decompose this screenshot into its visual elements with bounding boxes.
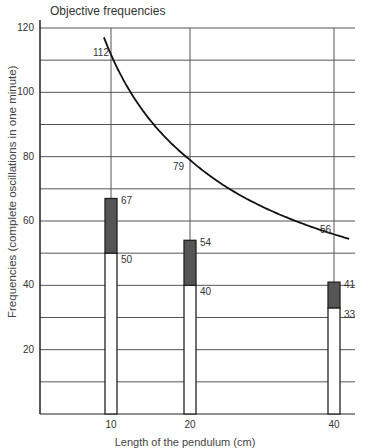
y-tick-label: 40 (23, 279, 35, 290)
y-tick-label: 120 (17, 22, 34, 33)
bar-lower (105, 253, 117, 414)
bar-upper (328, 282, 340, 308)
curve-label-112: 112 (93, 47, 109, 58)
y-tick-label: 20 (23, 344, 35, 355)
x-tick-label: 10 (105, 419, 117, 430)
curve-label-79: 79 (173, 161, 185, 172)
y-tick-label: 100 (17, 86, 34, 97)
bar-lower-value: 50 (121, 254, 133, 265)
bar-lower-value: 33 (344, 309, 356, 320)
bar-lower (184, 285, 196, 414)
x-tick-label: 20 (184, 419, 196, 430)
y-tick-label: 60 (23, 215, 35, 226)
curve-label-56: 56 (320, 224, 332, 235)
bar-upper (105, 198, 117, 253)
bar-upper (184, 240, 196, 285)
frequency-curve (104, 37, 349, 239)
bar-lower (328, 308, 340, 414)
bar-upper-value: 67 (121, 195, 133, 206)
bar-upper-value: 54 (200, 237, 212, 248)
bar-upper-value: 41 (344, 279, 356, 290)
y-tick-label: 80 (23, 151, 35, 162)
bar-lower-value: 40 (200, 286, 212, 297)
x-tick-label: 40 (328, 419, 340, 430)
